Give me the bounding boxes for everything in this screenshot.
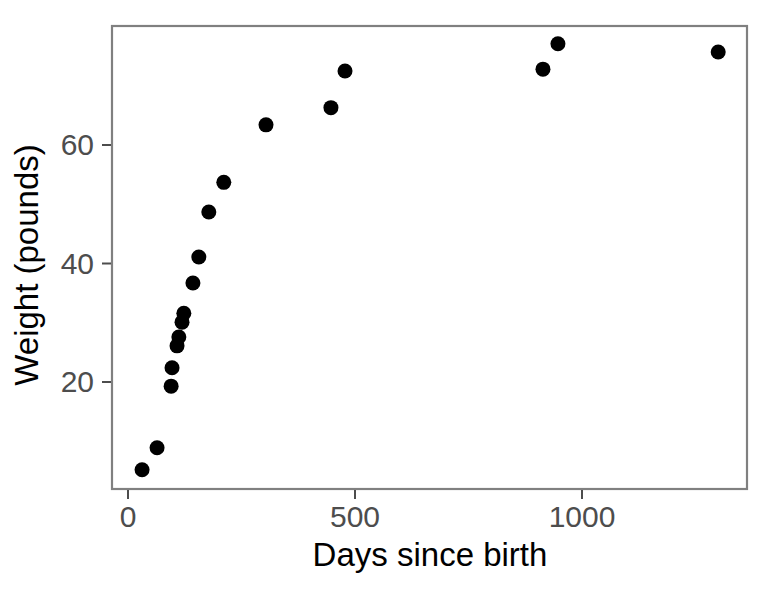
- data-point: [216, 175, 231, 190]
- data-point: [338, 63, 353, 78]
- y-tick-label-20: 20: [61, 365, 94, 398]
- data-point: [176, 306, 191, 321]
- data-point: [535, 62, 550, 77]
- data-point: [171, 329, 186, 344]
- chart-screenshot: 05001000 204060 Days since birth Weight …: [0, 0, 773, 597]
- data-point: [185, 276, 200, 291]
- x-axis-title: Days since birth: [313, 536, 548, 573]
- x-tick-label-500: 500: [330, 500, 380, 533]
- y-tick-label-40: 40: [61, 247, 94, 280]
- data-point: [201, 204, 216, 219]
- data-point: [259, 117, 274, 132]
- scatter-plot: 05001000 204060 Days since birth Weight …: [0, 0, 773, 597]
- plot-background: [0, 0, 773, 597]
- data-point: [550, 36, 565, 51]
- data-point: [165, 360, 180, 375]
- data-point: [135, 462, 150, 477]
- data-point: [164, 379, 179, 394]
- data-point: [150, 440, 165, 455]
- data-point: [323, 100, 338, 115]
- y-tick-label-60: 60: [61, 128, 94, 161]
- data-point: [711, 44, 726, 59]
- data-point: [191, 249, 206, 264]
- x-tick-label-0: 0: [120, 500, 137, 533]
- y-axis-title: Weight (pounds): [8, 144, 45, 386]
- x-tick-label-1000: 1000: [549, 500, 616, 533]
